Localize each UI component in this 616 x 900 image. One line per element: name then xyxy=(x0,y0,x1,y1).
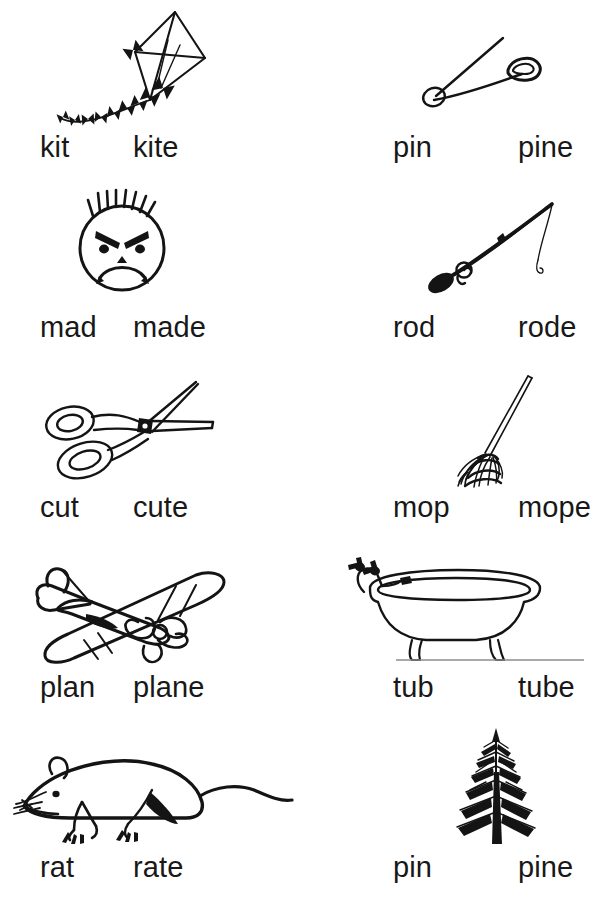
scissors-drawing xyxy=(0,360,308,492)
mop-drawing xyxy=(308,360,616,492)
kite-drawing xyxy=(0,0,308,132)
word-labels: rod rode xyxy=(308,306,616,354)
long-vowel-word: rode xyxy=(518,310,576,344)
short-vowel-word: tub xyxy=(393,670,434,704)
pine-tree-drawing xyxy=(308,720,616,852)
word-pair-cell-kite: kit kite xyxy=(0,0,308,180)
word-pair-cell-airplane: plan plane xyxy=(0,540,308,720)
short-vowel-word: rod xyxy=(393,310,435,344)
word-pair-cell-bathtub: tub tube xyxy=(308,540,616,720)
rat-drawing xyxy=(0,720,308,852)
word-labels: pin pine xyxy=(308,126,616,174)
word-labels: tub tube xyxy=(308,666,616,714)
worksheet-page: kit kite xyxy=(0,0,616,900)
long-vowel-word: kite xyxy=(133,130,179,164)
short-vowel-word: mop xyxy=(393,490,450,524)
word-labels: pin pine xyxy=(308,846,616,894)
short-vowel-word: rat xyxy=(40,850,74,884)
long-vowel-word: rate xyxy=(133,850,183,884)
long-vowel-word: plane xyxy=(133,670,204,704)
long-vowel-word: mope xyxy=(518,490,591,524)
word-pair-cell-pine-tree: pin pine xyxy=(308,720,616,900)
word-pair-cell-mop: mop mope xyxy=(308,360,616,540)
safety-pin-drawing xyxy=(308,0,616,132)
word-labels: plan plane xyxy=(0,666,308,714)
word-pair-cell-safety-pin: pin pine xyxy=(308,0,616,180)
short-vowel-word: kit xyxy=(40,130,69,164)
long-vowel-word: pine xyxy=(518,130,573,164)
short-vowel-word: mad xyxy=(40,310,97,344)
word-labels: mop mope xyxy=(308,486,616,534)
fishing-rod-drawing xyxy=(308,180,616,312)
word-labels: kit kite xyxy=(0,126,308,174)
short-vowel-word: cut xyxy=(40,490,79,524)
bathtub-drawing xyxy=(308,540,616,672)
short-vowel-word: pin xyxy=(393,850,432,884)
angry-face-drawing xyxy=(0,180,308,312)
word-pair-cell-fishing-rod: rod rode xyxy=(308,180,616,360)
word-labels: cut cute xyxy=(0,486,308,534)
word-pair-cell-rat: rat rate xyxy=(0,720,308,900)
word-labels: mad made xyxy=(0,306,308,354)
word-pair-cell-scissors: cut cute xyxy=(0,360,308,540)
airplane-drawing xyxy=(0,540,308,672)
long-vowel-word: made xyxy=(133,310,206,344)
short-vowel-word: plan xyxy=(40,670,95,704)
word-pair-cell-mad: mad made xyxy=(0,180,308,360)
long-vowel-word: cute xyxy=(133,490,188,524)
long-vowel-word: tube xyxy=(518,670,575,704)
long-vowel-word: pine xyxy=(518,850,573,884)
word-labels: rat rate xyxy=(0,846,308,894)
short-vowel-word: pin xyxy=(393,130,432,164)
